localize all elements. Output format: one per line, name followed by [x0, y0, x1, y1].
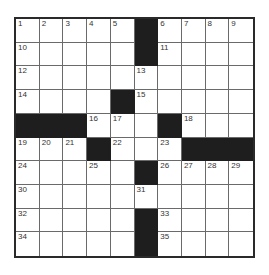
crossword-cell[interactable] — [158, 66, 182, 90]
crossword-cell[interactable] — [87, 232, 111, 256]
crossword-cell[interactable] — [111, 43, 135, 67]
crossword-cell[interactable]: 19 — [16, 138, 40, 162]
crossword-cell[interactable] — [206, 209, 230, 233]
clue-number: 21 — [65, 139, 74, 147]
crossword-cell[interactable]: 21 — [63, 138, 87, 162]
crossword-cell[interactable]: 34 — [16, 232, 40, 256]
black-square — [182, 138, 206, 162]
crossword-cell[interactable] — [206, 90, 230, 114]
crossword-cell[interactable]: 33 — [158, 209, 182, 233]
clue-number: 23 — [160, 139, 169, 147]
crossword-cell[interactable] — [40, 90, 64, 114]
crossword-cell[interactable] — [182, 66, 206, 90]
clue-number: 3 — [65, 20, 69, 28]
crossword-cell[interactable]: 22 — [111, 138, 135, 162]
crossword-cell[interactable] — [206, 114, 230, 138]
clue-number: 25 — [89, 162, 98, 170]
crossword-cell[interactable]: 12 — [16, 66, 40, 90]
crossword-cell[interactable]: 9 — [229, 19, 253, 43]
crossword-cell[interactable]: 13 — [135, 66, 159, 90]
crossword-cell[interactable] — [40, 161, 64, 185]
crossword-cell[interactable] — [87, 43, 111, 67]
clue-number: 1 — [18, 20, 22, 28]
crossword-cell[interactable] — [111, 66, 135, 90]
crossword-cell[interactable] — [182, 209, 206, 233]
crossword-cell[interactable] — [63, 209, 87, 233]
crossword-cell[interactable]: 31 — [135, 185, 159, 209]
crossword-cell[interactable] — [40, 43, 64, 67]
crossword-cell[interactable] — [63, 185, 87, 209]
crossword-cell[interactable]: 20 — [40, 138, 64, 162]
crossword-cell[interactable] — [229, 185, 253, 209]
crossword-cell[interactable] — [63, 90, 87, 114]
crossword-cell[interactable] — [63, 43, 87, 67]
crossword-cell[interactable]: 6 — [158, 19, 182, 43]
crossword-cell[interactable] — [40, 209, 64, 233]
crossword-cell[interactable]: 4 — [87, 19, 111, 43]
crossword-cell[interactable] — [87, 209, 111, 233]
crossword-cell[interactable] — [87, 90, 111, 114]
crossword-cell[interactable] — [229, 43, 253, 67]
crossword-cell[interactable] — [182, 232, 206, 256]
crossword-cell[interactable]: 16 — [87, 114, 111, 138]
crossword-cell[interactable] — [182, 185, 206, 209]
crossword-cell[interactable]: 17 — [111, 114, 135, 138]
crossword-cell[interactable]: 10 — [16, 43, 40, 67]
clue-number: 34 — [18, 233, 27, 241]
crossword-cell[interactable]: 26 — [158, 161, 182, 185]
crossword-cell[interactable] — [87, 185, 111, 209]
crossword-cell[interactable] — [111, 161, 135, 185]
crossword-cell[interactable] — [63, 161, 87, 185]
crossword-cell[interactable] — [229, 66, 253, 90]
crossword-cell[interactable]: 11 — [158, 43, 182, 67]
crossword-cell[interactable]: 24 — [16, 161, 40, 185]
crossword-cell[interactable]: 1 — [16, 19, 40, 43]
crossword-cell[interactable] — [229, 90, 253, 114]
crossword-cell[interactable]: 32 — [16, 209, 40, 233]
crossword-cell[interactable]: 25 — [87, 161, 111, 185]
crossword-cell[interactable]: 2 — [40, 19, 64, 43]
clue-number: 6 — [160, 20, 164, 28]
crossword-cell[interactable] — [40, 185, 64, 209]
crossword-cell[interactable]: 3 — [63, 19, 87, 43]
crossword-cell[interactable] — [206, 66, 230, 90]
crossword-cell[interactable] — [182, 90, 206, 114]
crossword-cell[interactable] — [158, 90, 182, 114]
crossword-cell[interactable]: 27 — [182, 161, 206, 185]
crossword-cell[interactable]: 5 — [111, 19, 135, 43]
crossword-cell[interactable]: 35 — [158, 232, 182, 256]
crossword-cell[interactable] — [63, 66, 87, 90]
black-square — [135, 19, 159, 43]
crossword-cell[interactable] — [135, 114, 159, 138]
clue-number: 18 — [184, 115, 193, 123]
crossword-cell[interactable]: 30 — [16, 185, 40, 209]
crossword-cell[interactable] — [229, 232, 253, 256]
crossword-cell[interactable] — [40, 66, 64, 90]
clue-number: 30 — [18, 186, 27, 194]
crossword-cell[interactable] — [229, 114, 253, 138]
crossword-cell[interactable] — [135, 138, 159, 162]
crossword-cell[interactable]: 8 — [206, 19, 230, 43]
crossword-cell[interactable]: 18 — [182, 114, 206, 138]
crossword-cell[interactable] — [158, 185, 182, 209]
crossword-cell[interactable]: 28 — [206, 161, 230, 185]
crossword-cell[interactable] — [229, 209, 253, 233]
clue-number: 13 — [137, 67, 146, 75]
crossword-cell[interactable]: 7 — [182, 19, 206, 43]
crossword-cell[interactable] — [206, 232, 230, 256]
crossword-cell[interactable] — [111, 209, 135, 233]
crossword-cell[interactable]: 15 — [135, 90, 159, 114]
clue-number: 8 — [208, 20, 212, 28]
crossword-cell[interactable]: 14 — [16, 90, 40, 114]
crossword-cell[interactable] — [182, 43, 206, 67]
crossword-cell[interactable]: 23 — [158, 138, 182, 162]
crossword-cell[interactable] — [63, 232, 87, 256]
crossword-cell[interactable]: 29 — [229, 161, 253, 185]
clue-number: 15 — [137, 91, 146, 99]
crossword-cell[interactable] — [206, 43, 230, 67]
crossword-cell[interactable] — [40, 232, 64, 256]
crossword-cell[interactable] — [206, 185, 230, 209]
crossword-cell[interactable] — [87, 66, 111, 90]
crossword-cell[interactable] — [111, 232, 135, 256]
crossword-cell[interactable] — [111, 185, 135, 209]
